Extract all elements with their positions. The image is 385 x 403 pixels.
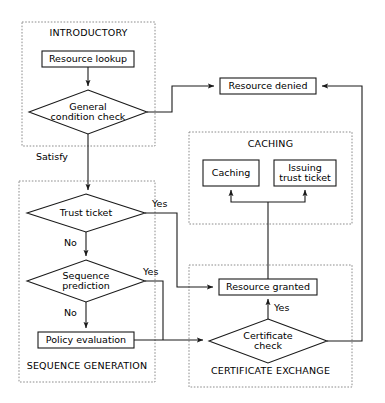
edge-granted-to-caching <box>231 190 268 202</box>
node-shape-general-condition-check <box>29 90 147 134</box>
node-shape-issuing-trust-ticket <box>274 160 336 186</box>
edge-granted-to-issuing <box>268 190 305 202</box>
node-shape-trust-ticket <box>27 194 145 232</box>
node-shape-resource-denied <box>220 78 316 94</box>
node-shape-policy-evaluation <box>38 332 134 348</box>
flowchart-canvas: INTRODUCTORY SEQUENCE GENERATION CACHING… <box>0 0 385 403</box>
edge-certificate-no-to-denied <box>322 86 362 341</box>
edge-condition-to-denied <box>147 86 214 112</box>
node-shape-resource-lookup <box>42 51 134 67</box>
flowchart-vector-layer <box>0 0 385 403</box>
node-shape-certificate-check <box>209 319 327 363</box>
node-shape-caching <box>203 160 259 186</box>
node-shape-resource-granted <box>219 279 317 295</box>
edge-sequence-yes <box>145 281 163 340</box>
node-shape-sequence-prediction <box>27 260 145 302</box>
